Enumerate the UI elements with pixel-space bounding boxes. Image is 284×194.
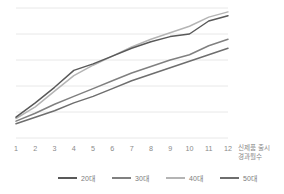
line-chart-container: 123456789101112 신제품 출시 경과월수 20대30대40대50대	[0, 0, 284, 194]
x-axis-title-line2: 경과월수	[238, 152, 262, 161]
x-tick-label: 6	[110, 144, 114, 153]
x-axis-title: 신제품 출시 경과월수	[238, 143, 270, 161]
series-lines	[16, 12, 228, 124]
x-tick-label: 3	[53, 144, 57, 153]
x-axis-title-line1: 신제품 출시	[238, 143, 270, 152]
legend-label-50대: 50대	[243, 175, 257, 183]
x-tick-label: 4	[72, 144, 76, 153]
series-line-20대	[16, 16, 228, 117]
legend-label-20대: 20대	[81, 175, 95, 183]
legend-label-30대: 30대	[135, 175, 149, 183]
x-tick-label: 11	[205, 144, 212, 153]
legend-label-40대: 40대	[189, 175, 203, 183]
x-axis-tick-labels: 123456789101112	[14, 144, 232, 153]
x-tick-label: 5	[91, 144, 95, 153]
gridlines	[16, 8, 228, 138]
x-tick-label: 10	[185, 144, 193, 153]
chart-legend: 20대30대40대50대	[58, 175, 257, 183]
x-tick-label: 1	[14, 144, 18, 153]
chart-plot-area: 123456789101112 신제품 출시 경과월수 20대30대40대50대	[0, 0, 284, 194]
x-tick-label: 9	[168, 144, 172, 153]
series-line-40대	[16, 12, 228, 119]
x-tick-label: 2	[33, 144, 37, 153]
chart-svg: 123456789101112 신제품 출시 경과월수 20대30대40대50대	[0, 0, 284, 194]
x-tick-label: 12	[224, 144, 232, 153]
x-tick-label: 7	[130, 144, 134, 153]
x-tick-label: 8	[149, 144, 153, 153]
